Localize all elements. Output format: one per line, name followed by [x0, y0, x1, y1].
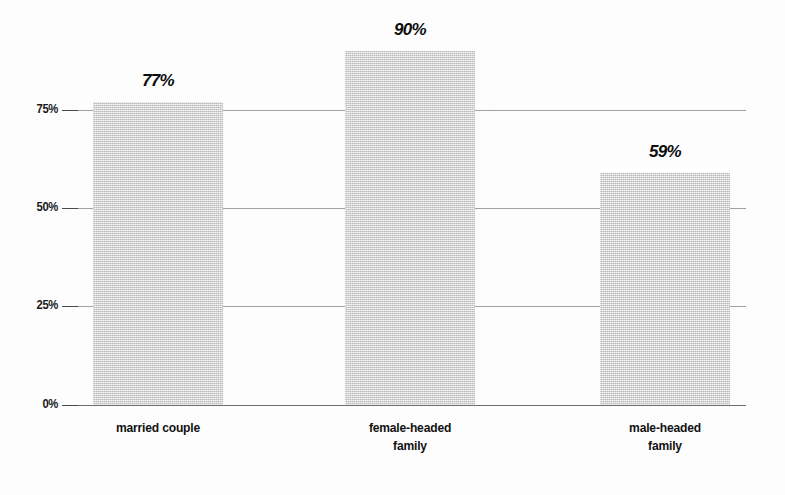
bar-value-married-couple: 77%: [93, 72, 223, 89]
category-label-female-headed-family: female-headed family: [336, 419, 485, 454]
bar-chart: 75% 50% 25% 0% 77% married couple 90% fe…: [0, 0, 785, 495]
category-label-male-headed-family: male-headed family: [591, 419, 740, 454]
category-label-married-couple: married couple: [84, 419, 233, 437]
y-axis-label-25: 25%: [4, 299, 58, 312]
tick-mark-50: [62, 208, 78, 209]
tick-mark-0: [62, 405, 78, 406]
bar-female-headed-family: [345, 51, 475, 405]
y-axis-label-0: 0%: [4, 398, 58, 411]
tick-mark-75: [62, 110, 78, 111]
tick-mark-25: [62, 306, 78, 307]
bar-male-headed-family: [600, 173, 730, 405]
bar-value-female-headed-family: 90%: [345, 21, 475, 38]
bar-value-male-headed-family: 59%: [600, 143, 730, 160]
y-axis-label-50: 50%: [4, 201, 58, 214]
bar-married-couple: [93, 102, 223, 405]
axis-baseline-0: [78, 405, 746, 406]
y-axis-label-75: 75%: [4, 103, 58, 116]
